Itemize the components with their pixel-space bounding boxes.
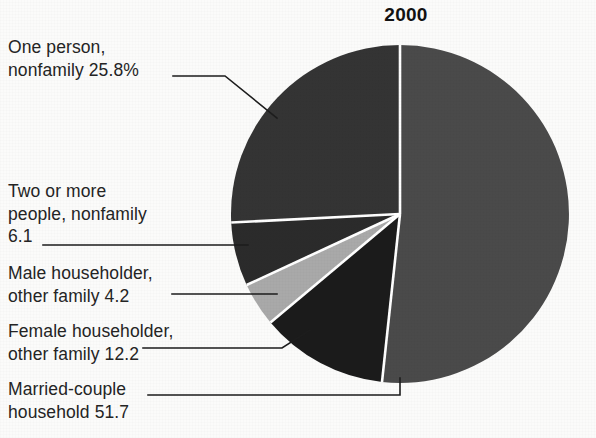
leader-line-one-person-nonfamily xyxy=(173,76,277,118)
callout-two-or-more-people-nonfamily-line2: people, nonfamily xyxy=(8,203,147,226)
leader-line-married-couple-household xyxy=(148,378,400,395)
callout-married-couple-household: Married-couple household 51.7 xyxy=(8,378,129,423)
pie-slice-married-couple-household[interactable] xyxy=(382,45,569,383)
callout-married-couple-household-line1: Married-couple xyxy=(8,378,129,401)
callout-married-couple-household-line2: household 51.7 xyxy=(8,401,129,424)
callout-female-householder-other-family-line1: Female householder, xyxy=(8,320,173,343)
callout-two-or-more-people-nonfamily: Two or more people, nonfamily 6.1 xyxy=(8,180,147,248)
callout-male-householder-other-family-line2: other family 4.2 xyxy=(8,285,153,308)
callout-female-householder-other-family: Female householder, other family 12.2 xyxy=(8,320,173,365)
pie-slice-one-person-nonfamily[interactable] xyxy=(231,45,400,222)
callout-female-householder-other-family-line2: other family 12.2 xyxy=(8,343,173,366)
callout-male-householder-other-family-line1: Male householder, xyxy=(8,262,153,285)
callout-two-or-more-people-nonfamily-line3: 6.1 xyxy=(8,225,147,248)
callout-male-householder-other-family: Male householder, other family 4.2 xyxy=(8,262,153,307)
callout-two-or-more-people-nonfamily-line1: Two or more xyxy=(8,180,147,203)
callout-one-person-nonfamily: One person, nonfamily 25.8% xyxy=(8,36,139,81)
callout-one-person-nonfamily-line2: nonfamily 25.8% xyxy=(8,59,139,82)
pie-chart-figure: 2000 xyxy=(0,0,596,438)
callout-one-person-nonfamily-line1: One person, xyxy=(8,36,139,59)
